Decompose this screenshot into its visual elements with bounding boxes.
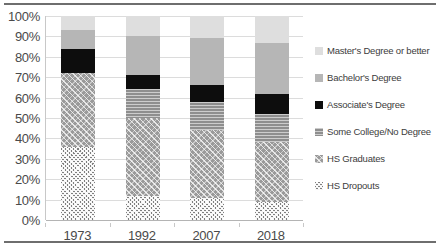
bar-segment (190, 102, 224, 131)
legend-item[interactable]: HS Graduates (315, 154, 437, 164)
legend-swatch-associates (315, 101, 323, 109)
plot-area (45, 16, 303, 220)
bar-segment (61, 30, 95, 48)
bar-segment (126, 75, 160, 89)
chart-legend: Master's Degree or betterBachelor's Degr… (315, 46, 437, 208)
bar-segment (126, 196, 160, 220)
x-tickmark (45, 223, 46, 227)
stacked-bar-chart: 0%10%20%30%40%50%60%70%80%90%100% 197319… (0, 0, 440, 249)
bar-segment (126, 36, 160, 75)
bar-segment (255, 43, 289, 94)
bars-layer (46, 16, 303, 220)
bar-segment (61, 73, 95, 146)
x-tickmark (174, 223, 175, 227)
bar-segment (190, 85, 224, 101)
legend-item[interactable]: Some College/No Degree (315, 127, 437, 137)
x-tick-label: 2007 (192, 228, 220, 243)
legend-item-label: Some College/No Degree (327, 127, 431, 137)
bar-segment (255, 142, 289, 201)
y-tick-label: 50% (15, 111, 40, 126)
bar-segment (190, 130, 224, 197)
legend-swatch-bachelors (315, 74, 323, 82)
bar-2018 (255, 16, 289, 220)
bar-segment (126, 89, 160, 118)
y-tick-label: 100% (8, 9, 40, 24)
legend-item-label: Associate's Degree (327, 100, 405, 110)
bar-1973 (61, 16, 95, 220)
x-tickmark (303, 223, 304, 227)
y-tick-label: 20% (15, 172, 40, 187)
bar-segment (126, 16, 160, 36)
bar-segment (61, 16, 95, 30)
bar-segment (255, 202, 289, 220)
bar-segment (61, 147, 95, 220)
legend-swatch-hs-graduates (315, 155, 323, 163)
bar-2007 (190, 16, 224, 220)
y-tick-label: 0% (22, 213, 40, 228)
legend-item[interactable]: HS Dropouts (315, 181, 437, 191)
legend-swatch-masters (315, 47, 323, 55)
legend-item-label: Bachelor's Degree (327, 73, 401, 83)
bar-segment (190, 16, 224, 38)
legend-swatch-some-college (315, 128, 323, 136)
legend-item[interactable]: Associate's Degree (315, 100, 437, 110)
y-tick-label: 70% (15, 70, 40, 85)
legend-item-label: Master's Degree or better (327, 46, 429, 56)
y-tick-label: 40% (15, 131, 40, 146)
legend-item-label: HS Graduates (327, 154, 385, 164)
x-tick-label: 1992 (128, 228, 156, 243)
legend-item-label: HS Dropouts (327, 181, 379, 191)
y-tick-label: 60% (15, 90, 40, 105)
y-axis: 0%10%20%30%40%50%60%70%80%90%100% (0, 10, 42, 224)
bar-segment (255, 114, 289, 143)
bar-segment (255, 94, 289, 114)
y-tick-label: 30% (15, 151, 40, 166)
bar-segment (190, 198, 224, 220)
bar-segment (61, 49, 95, 73)
legend-swatch-hs-dropouts (315, 182, 323, 190)
legend-item[interactable]: Bachelor's Degree (315, 73, 437, 83)
x-tickmark (110, 223, 111, 227)
top-rule (4, 3, 436, 5)
y-tick-label: 90% (15, 29, 40, 44)
bar-segment (126, 118, 160, 196)
y-tick-label: 80% (15, 49, 40, 64)
bar-1992 (126, 16, 160, 220)
bar-segment (190, 38, 224, 85)
x-tickmark (239, 223, 240, 227)
x-tick-label: 2018 (257, 228, 285, 243)
axis-baseline (46, 220, 303, 221)
x-tick-label: 1973 (63, 228, 91, 243)
bar-segment (255, 16, 289, 43)
y-tick-label: 10% (15, 192, 40, 207)
x-axis: 1973199220072018 (45, 223, 303, 245)
legend-item[interactable]: Master's Degree or better (315, 46, 437, 56)
